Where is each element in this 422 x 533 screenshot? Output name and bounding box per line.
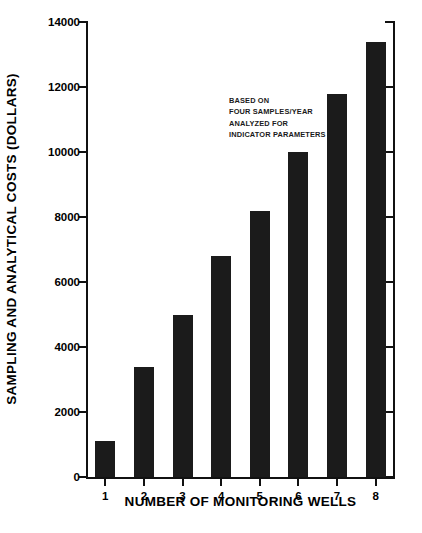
y-tick-mark	[79, 411, 88, 413]
x-tick-mark	[182, 477, 184, 486]
y-tick-mark	[79, 281, 88, 283]
x-tick-mark	[104, 477, 106, 486]
bar	[134, 367, 154, 478]
x-tick-mark	[259, 477, 261, 486]
bar	[288, 152, 308, 477]
y-tick-label: 0	[10, 471, 80, 483]
x-tick-mark	[220, 477, 222, 486]
y-tick-mark-right	[385, 21, 395, 23]
bar-chart-figure: SAMPLING AND ANALYTICAL COSTS (DOLLARS) …	[0, 0, 422, 533]
bar	[173, 315, 193, 478]
y-tick-mark	[79, 346, 88, 348]
y-tick-label: 10000	[10, 146, 80, 158]
y-tick-mark-right	[385, 216, 395, 218]
bar	[327, 94, 347, 478]
y-tick-mark	[79, 216, 88, 218]
y-tick-mark-right	[385, 281, 395, 283]
basis-note-annotation: BASED ON FOUR SAMPLES/YEAR ANALYZED FOR …	[229, 95, 326, 140]
bar	[95, 441, 115, 477]
y-tick-label: 14000	[10, 16, 80, 28]
x-axis-spine	[86, 477, 395, 479]
y-tick-label: 12000	[10, 81, 80, 93]
y-tick-mark-right	[385, 151, 395, 153]
y-tick-label: 8000	[10, 211, 80, 223]
bar	[366, 42, 386, 478]
y-tick-mark-right	[385, 411, 395, 413]
y-tick-mark	[79, 86, 88, 88]
plot-area: 02000400060008000100001200014000 1234567…	[86, 22, 395, 477]
bar	[211, 256, 231, 477]
y-tick-label: 6000	[10, 276, 80, 288]
x-tick-mark	[143, 477, 145, 486]
y-tick-mark-right	[385, 476, 395, 478]
x-axis-title: NUMBER OF MONITORING WELLS	[86, 494, 395, 509]
y-tick-mark-right	[385, 346, 395, 348]
y-tick-label: 2000	[10, 406, 80, 418]
y-tick-mark-right	[385, 86, 395, 88]
x-tick-mark	[375, 477, 377, 486]
y-axis-left-spine	[86, 21, 88, 478]
y-tick-mark	[79, 476, 88, 478]
y-axis-right-spine	[393, 21, 395, 478]
y-tick-label: 4000	[10, 341, 80, 353]
x-tick-mark	[336, 477, 338, 486]
x-tick-mark	[297, 477, 299, 486]
y-tick-mark	[79, 151, 88, 153]
y-tick-mark	[79, 21, 88, 23]
bar	[250, 211, 270, 478]
